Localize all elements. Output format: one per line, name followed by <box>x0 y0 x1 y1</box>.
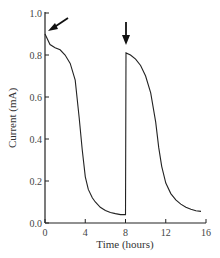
y-tick-label: 0.0 <box>30 218 43 229</box>
current-time-chart: 0.00.20.40.60.81.0 0481216 Current (mA) … <box>0 0 220 258</box>
y-tick-label: 0.2 <box>30 176 43 187</box>
x-axis-label: Time (hours) <box>96 238 154 251</box>
y-tick-label: 1.0 <box>30 8 43 19</box>
y-tick-label: 0.4 <box>30 134 43 145</box>
y-tick-label: 0.6 <box>30 92 43 103</box>
y-ticks: 0.00.20.40.60.81.0 <box>30 8 50 229</box>
y-tick-label: 0.8 <box>30 50 43 61</box>
arrow-annotation-restart <box>122 22 130 45</box>
x-tick-label: 8 <box>123 227 128 238</box>
y-axis-label: Current (mA) <box>6 88 19 149</box>
x-tick-label: 12 <box>161 227 171 238</box>
x-tick-label: 4 <box>83 227 88 238</box>
current-curve <box>45 34 201 215</box>
x-tick-label: 0 <box>43 227 48 238</box>
arrow-annotation-start <box>48 18 68 31</box>
x-tick-label: 16 <box>201 227 211 238</box>
x-ticks: 0481216 <box>43 219 212 238</box>
